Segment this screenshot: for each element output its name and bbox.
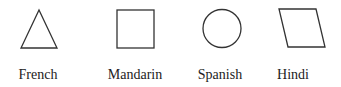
- shape-language-diagram: French Mandarin Spanish Hindi: [0, 0, 341, 87]
- label-spanish: Spanish: [198, 67, 242, 83]
- circle-icon: [203, 10, 241, 48]
- label-french: French: [19, 67, 58, 83]
- label-mandarin: Mandarin: [108, 67, 162, 83]
- square-icon: [117, 10, 154, 48]
- label-hindi: Hindi: [277, 67, 309, 83]
- triangle-icon: [21, 10, 57, 48]
- parallelogram-icon: [279, 9, 325, 47]
